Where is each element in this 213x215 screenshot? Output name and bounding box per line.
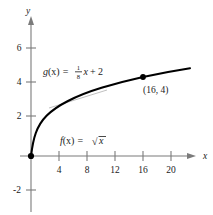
f-function-label: f(x)= √ x bbox=[60, 135, 106, 147]
g-label-numerator: 1 bbox=[77, 64, 80, 71]
svg-text:f(x)=: f(x)= bbox=[60, 135, 83, 147]
g-label-arg: (x) bbox=[48, 66, 60, 78]
f-label-arg: (x) bbox=[63, 135, 75, 147]
graph-figure: y x 4 8 12 16 20 6 4 bbox=[0, 0, 213, 215]
x-tick-label-20: 20 bbox=[166, 165, 176, 175]
g-function-label: g(x)= 1 8 x + 2 bbox=[43, 64, 103, 80]
f-label-equals: = bbox=[77, 135, 83, 146]
x-axis: x bbox=[20, 151, 208, 161]
g-function-line bbox=[49, 90, 107, 108]
y-tick-label-4: 4 bbox=[17, 77, 22, 87]
y-axis-arrowhead bbox=[28, 16, 34, 25]
point-16-4-label: (16, 4) bbox=[143, 85, 168, 96]
f-label-sqrt-symbol: √ bbox=[92, 136, 98, 147]
g-label-denominator: 8 bbox=[77, 73, 81, 80]
x-axis-label: x bbox=[202, 151, 208, 161]
y-ticks: 6 4 2 -2 bbox=[13, 43, 36, 195]
origin-point-marker bbox=[28, 153, 34, 159]
x-tick-label-8: 8 bbox=[85, 165, 90, 175]
point-16-4-marker bbox=[140, 74, 146, 80]
x-ticks: 4 8 12 16 20 bbox=[57, 151, 176, 175]
plot-svg: y x 4 8 12 16 20 6 4 bbox=[0, 0, 213, 215]
f-label-radicand: x bbox=[98, 135, 104, 146]
x-axis-arrowhead bbox=[187, 153, 196, 159]
x-tick-label-4: 4 bbox=[57, 165, 62, 175]
y-axis-label: y bbox=[25, 6, 31, 16]
svg-text:g(x)=: g(x)= bbox=[43, 66, 69, 78]
x-tick-label-16: 16 bbox=[138, 165, 148, 175]
x-tick-label-12: 12 bbox=[110, 165, 120, 175]
g-label-plus: + bbox=[90, 66, 96, 77]
y-axis: y bbox=[25, 6, 34, 212]
g-label-constant: 2 bbox=[98, 66, 103, 77]
g-label-variable: x bbox=[83, 66, 89, 77]
y-tick-label-minus-2: -2 bbox=[13, 185, 21, 195]
g-label-equals: = bbox=[63, 66, 69, 77]
y-tick-label-6: 6 bbox=[17, 43, 22, 53]
f-function-curve bbox=[31, 68, 190, 156]
y-tick-label-2: 2 bbox=[17, 111, 22, 121]
